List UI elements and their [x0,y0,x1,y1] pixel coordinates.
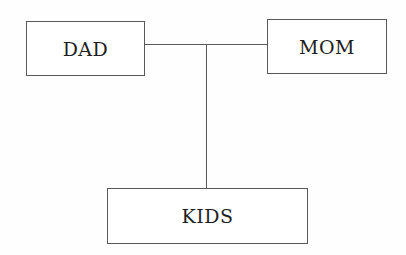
mom-node: MOM [267,19,387,74]
dad-node: DAD [26,21,145,76]
dad-label: DAD [63,38,109,60]
kids-label: KIDS [182,205,234,227]
kids-node: KIDS [107,188,308,244]
descent-connector-line [206,44,207,188]
mom-label: MOM [299,36,355,58]
